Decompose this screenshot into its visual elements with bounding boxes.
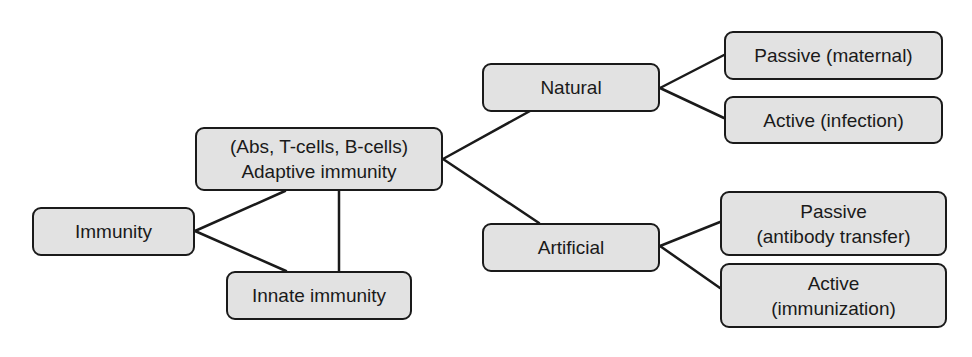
edge-natural-active-infection: [660, 88, 724, 118]
node-label: Active: [808, 271, 860, 296]
node-label: Artificial: [538, 235, 605, 260]
node-passive-antibody-transfer: Passive (antibody transfer): [720, 191, 947, 256]
node-label-sub: (Abs, T-cells, B-cells): [230, 134, 408, 159]
node-label: Passive (maternal): [754, 43, 912, 68]
node-label: Adaptive immunity: [241, 159, 396, 184]
node-artificial: Artificial: [482, 223, 660, 272]
edge-immunity-innate: [195, 231, 286, 271]
node-label: Passive: [800, 199, 867, 224]
node-natural: Natural: [482, 63, 660, 112]
node-label-sub: (antibody transfer): [756, 224, 910, 249]
edge-artificial-passive-antibody: [660, 222, 720, 246]
edge-adaptive-artificial: [443, 159, 539, 223]
node-immunity: Immunity: [32, 207, 195, 256]
node-label-sub: (immunization): [771, 296, 896, 321]
edge-natural-passive-maternal: [660, 55, 724, 88]
node-adaptive-immunity: (Abs, T-cells, B-cells) Adaptive immunit…: [195, 127, 443, 191]
edge-artificial-active-immunization: [660, 246, 720, 288]
node-label: Natural: [540, 75, 601, 100]
edge-adaptive-natural: [443, 111, 530, 159]
node-passive-maternal: Passive (maternal): [724, 31, 943, 80]
node-active-immunization: Active (immunization): [720, 263, 947, 328]
node-label: Immunity: [75, 219, 152, 244]
node-label: Innate immunity: [252, 283, 386, 308]
node-active-infection: Active (infection): [724, 96, 943, 144]
node-label: Active (infection): [763, 108, 903, 133]
edge-immunity-adaptive: [195, 191, 285, 231]
node-innate-immunity: Innate immunity: [226, 271, 412, 320]
